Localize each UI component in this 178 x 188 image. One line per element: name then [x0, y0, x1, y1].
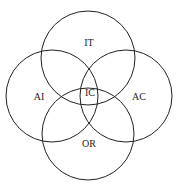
label-ai: AI [34, 91, 45, 102]
venn-diagram: IT AI AC OR IC [0, 0, 178, 188]
label-ac: AC [132, 91, 146, 102]
label-it: IT [84, 37, 93, 48]
label-ic: IC [85, 87, 95, 98]
circle-or [42, 88, 134, 180]
label-or: OR [82, 138, 96, 149]
